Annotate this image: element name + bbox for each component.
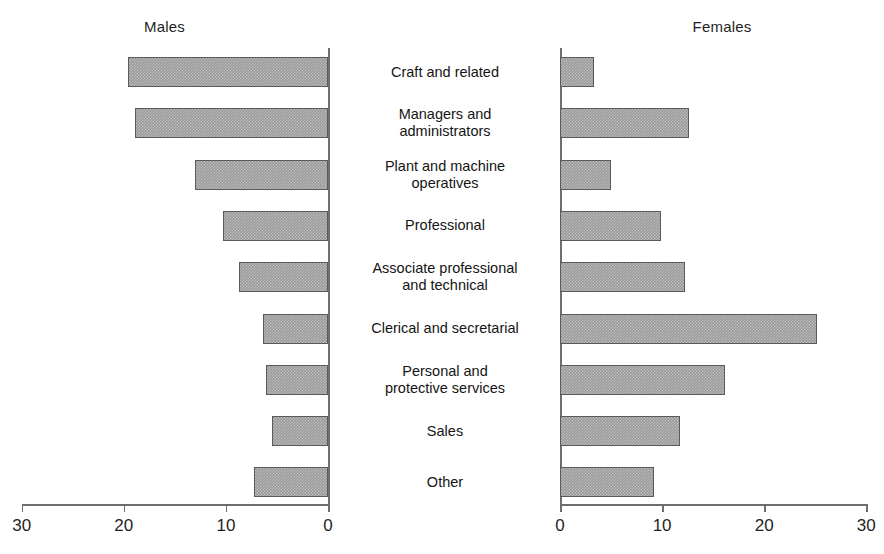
- bar-females-8: [560, 467, 654, 497]
- category-label-column: Craft and relatedManagers and administra…: [332, 0, 558, 554]
- bar-females-4: [560, 262, 685, 292]
- females-tick-label-0: 0: [555, 516, 564, 536]
- category-axis-males: [328, 48, 330, 504]
- bar-females-3: [560, 211, 661, 241]
- value-axis-males: [22, 504, 329, 506]
- males-tick-20: [124, 504, 126, 512]
- category-label-7: Sales: [332, 423, 558, 440]
- bar-females-1: [560, 108, 689, 138]
- bar-males-2: [195, 160, 328, 190]
- bar-males-5: [263, 314, 328, 344]
- males-tick-label-20: 20: [114, 516, 133, 536]
- bar-males-4: [239, 262, 328, 292]
- females-tick-0: [560, 504, 562, 512]
- plot-area-females: [560, 0, 884, 554]
- category-label-0: Craft and related: [332, 64, 558, 81]
- bar-females-0: [560, 57, 594, 87]
- value-axis-females: [560, 504, 867, 506]
- category-label-4: Associate professional and technical: [332, 260, 558, 294]
- females-tick-label-10: 10: [653, 516, 672, 536]
- bar-females-5: [560, 314, 817, 344]
- males-tick-label-30: 30: [12, 516, 31, 536]
- females-tick-20: [764, 504, 766, 512]
- males-tick-0: [328, 504, 330, 512]
- bar-males-0: [128, 57, 328, 87]
- males-tick-label-0: 0: [323, 516, 332, 536]
- bar-males-7: [272, 416, 328, 446]
- back-to-back-bar-chart: Males Females Craft and relatedManagers …: [0, 0, 884, 554]
- males-tick-label-10: 10: [216, 516, 235, 536]
- bar-females-2: [560, 160, 611, 190]
- bar-males-6: [266, 365, 328, 395]
- bar-females-7: [560, 416, 680, 446]
- bar-males-3: [223, 211, 328, 241]
- category-label-8: Other: [332, 474, 558, 491]
- bar-males-8: [254, 467, 328, 497]
- category-label-6: Personal and protective services: [332, 363, 558, 397]
- category-label-2: Plant and machine operatives: [332, 158, 558, 192]
- females-tick-label-30: 30: [857, 516, 876, 536]
- females-tick-label-20: 20: [755, 516, 774, 536]
- plot-area-males: [0, 0, 330, 554]
- category-label-3: Professional: [332, 217, 558, 234]
- bar-females-6: [560, 365, 725, 395]
- category-label-1: Managers and administrators: [332, 106, 558, 140]
- males-tick-30: [22, 504, 24, 512]
- females-tick-30: [866, 504, 868, 512]
- females-tick-10: [662, 504, 664, 512]
- males-tick-10: [226, 504, 228, 512]
- category-label-5: Clerical and secretarial: [332, 320, 558, 337]
- bar-males-1: [135, 108, 328, 138]
